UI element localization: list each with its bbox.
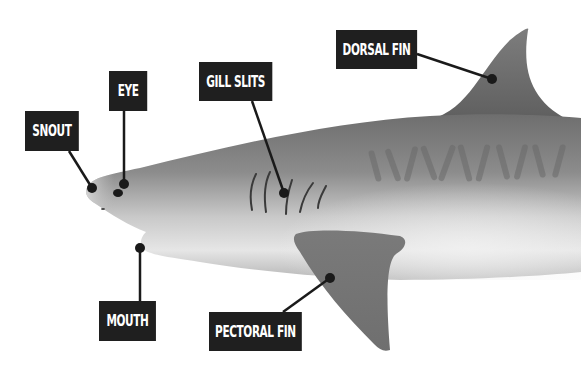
dorsal-fin-shape [430, 28, 568, 120]
label-pectoral-fin-text: PECTORAL FIN [215, 323, 296, 341]
label-gill-slits-text: GILL SLITS [206, 73, 265, 91]
label-eye: EYE [109, 71, 147, 111]
label-gill-slits: GILL SLITS [199, 62, 272, 101]
gill-slits-dot [279, 188, 289, 198]
label-dorsal-fin-text: DORSAL FIN [343, 41, 411, 59]
shark-anatomy-diagram: SNOUT EYE GILL SLITS DORSAL FIN MOUTH PE… [0, 0, 581, 375]
dorsal-fin-leader [417, 54, 492, 79]
label-snout-text: SNOUT [32, 122, 71, 140]
pectoral-fin-leader [283, 278, 330, 312]
pectoral-fin-dot [325, 273, 335, 283]
dorsal-fin-dot [487, 74, 497, 84]
label-eye-text: EYE [118, 82, 139, 100]
label-mouth: MOUTH [99, 301, 156, 341]
label-dorsal-fin: DORSAL FIN [336, 30, 417, 69]
snout-leader [69, 151, 92, 188]
label-mouth-text: MOUTH [106, 312, 148, 330]
label-snout: SNOUT [25, 111, 79, 151]
mouth-dot [135, 243, 145, 253]
eye-shape [113, 189, 123, 197]
snout-dot [87, 183, 97, 193]
label-pectoral-fin: PECTORAL FIN [209, 312, 302, 351]
eye-dot [119, 179, 129, 189]
